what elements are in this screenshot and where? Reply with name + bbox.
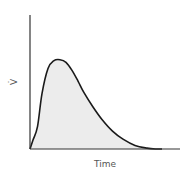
y-axis-label: V̇ <box>8 78 19 85</box>
x-axis-label: Time <box>93 159 116 169</box>
chart: Time V̇ <box>0 0 190 178</box>
area-fill <box>30 59 162 149</box>
